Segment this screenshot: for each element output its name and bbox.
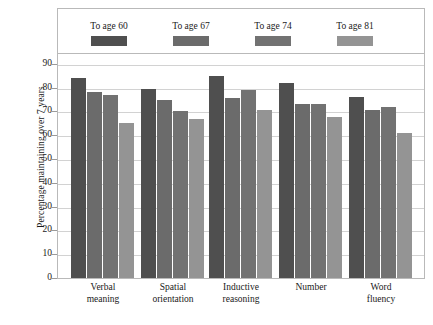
legend-swatch-icon <box>337 36 373 46</box>
x-label-line-1: Word <box>331 282 431 294</box>
y-tick-label-80: 80 <box>26 83 52 93</box>
bar-1-3[interactable] <box>189 119 204 278</box>
bar-0-2[interactable] <box>103 95 118 278</box>
legend-label: To age 81 <box>336 20 373 32</box>
bar-4-3[interactable] <box>397 133 412 278</box>
y-tick-label-30: 30 <box>26 202 52 212</box>
legend-swatch-icon <box>91 36 127 46</box>
bar-4-2[interactable] <box>381 107 396 278</box>
bar-3-0[interactable] <box>279 83 294 278</box>
y-tick-label-0: 0 <box>26 273 52 283</box>
bar-3-1[interactable] <box>295 104 310 278</box>
y-tick-label-20: 20 <box>26 225 52 235</box>
x-axis-category-labels: VerbalmeaningSpatialorientationInductive… <box>57 282 423 322</box>
y-tick-label-40: 40 <box>26 178 52 188</box>
bar-group-2 <box>209 52 273 278</box>
bar-2-1[interactable] <box>225 98 240 278</box>
y-tick-label-10: 10 <box>26 249 52 259</box>
legend-item-1[interactable]: To age 67 <box>150 9 232 53</box>
bar-2-0[interactable] <box>209 76 224 278</box>
bar-3-2[interactable] <box>311 104 326 278</box>
bar-group-4 <box>349 52 413 278</box>
bar-3-3[interactable] <box>327 117 342 278</box>
x-label-line-2: fluency <box>331 294 431 306</box>
x-label-line-2: reasoning <box>191 294 291 306</box>
legend-label: To age 67 <box>172 20 209 32</box>
bar-4-1[interactable] <box>365 110 380 278</box>
legend-swatch-icon <box>173 36 209 46</box>
bar-1-1[interactable] <box>157 100 172 278</box>
bar-2-3[interactable] <box>257 110 272 278</box>
bar-1-2[interactable] <box>173 111 188 278</box>
x-label-4: Wordfluency <box>331 282 431 305</box>
legend-label: To age 74 <box>254 20 291 32</box>
bar-2-2[interactable] <box>241 90 256 278</box>
bar-0-1[interactable] <box>87 92 102 278</box>
bar-0-0[interactable] <box>71 78 86 278</box>
bar-0-3[interactable] <box>119 123 134 278</box>
y-tick-label-90: 90 <box>26 59 52 69</box>
legend-swatch-icon <box>255 36 291 46</box>
y-tick-label-70: 70 <box>26 106 52 116</box>
legend-item-3[interactable]: To age 81 <box>314 9 396 53</box>
bar-4-0[interactable] <box>349 97 364 278</box>
bar-chart-figure: Percentage maintaining over 7 years 9080… <box>0 0 433 325</box>
chart-legend: To age 60To age 67To age 74To age 81 <box>58 9 424 53</box>
legend-item-2[interactable]: To age 74 <box>232 9 314 53</box>
bar-1-0[interactable] <box>141 89 156 278</box>
bar-group-3 <box>279 52 343 278</box>
y-tick-label-50: 50 <box>26 154 52 164</box>
bars-layer <box>57 52 423 278</box>
bar-group-1 <box>141 52 205 278</box>
y-tick-label-60: 60 <box>26 130 52 140</box>
legend-label: To age 60 <box>90 20 127 32</box>
legend-item-0[interactable]: To age 60 <box>68 9 150 53</box>
bar-group-0 <box>71 52 135 278</box>
